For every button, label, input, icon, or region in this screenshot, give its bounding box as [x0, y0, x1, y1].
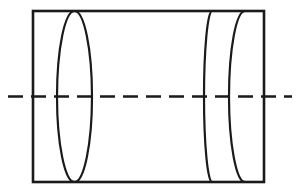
- cylinder-figure: [0, 0, 300, 194]
- technical-drawing-canvas: [0, 0, 300, 194]
